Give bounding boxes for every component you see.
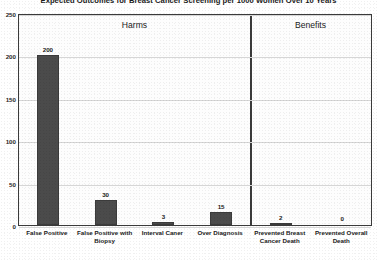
y-tick-label-100: 100 [0, 138, 16, 145]
category-label: False Positive with Biopsy [76, 229, 134, 244]
bar[interactable] [37, 55, 59, 225]
bar[interactable] [95, 200, 117, 225]
bar-value-label: 3 [162, 213, 165, 220]
category-label: Prevented Overall Death [311, 229, 373, 244]
y-tick-label-150: 150 [0, 95, 16, 102]
bar-group: 15 [192, 15, 250, 225]
category-label: Over Diagnosis [191, 229, 249, 237]
category-label: False Positive [18, 229, 76, 237]
y-tick-label-50: 50 [0, 180, 16, 187]
bar-value-label: 2 [279, 214, 282, 221]
y-tick-label-0: 0 [0, 223, 16, 230]
bar-group: 200 [19, 15, 77, 225]
bar-group: 0 [312, 15, 374, 225]
bar-group: 2 [250, 15, 312, 225]
bar-value-label: 15 [218, 203, 225, 210]
bar-value-label: 30 [102, 191, 109, 198]
category-label: Interval Caner [134, 229, 192, 237]
chart-title: Expected Outcomes for Breast Cancer Scre… [0, 0, 377, 6]
y-tick-label-250: 250 [0, 11, 16, 18]
bar-group: 3 [135, 15, 193, 225]
bar-value-label: 200 [43, 46, 53, 53]
gridline-0 [19, 227, 371, 228]
bar-value-label: 0 [341, 215, 344, 222]
plot-area: Harms Benefits 2003031520 [18, 14, 372, 226]
bar[interactable] [210, 212, 232, 225]
bar-group: 30 [77, 15, 135, 225]
category-label: Prevented Breast Cancer Death [249, 229, 311, 244]
y-tick-label-200: 200 [0, 53, 16, 60]
bar[interactable] [152, 222, 174, 225]
bar[interactable] [270, 223, 292, 225]
